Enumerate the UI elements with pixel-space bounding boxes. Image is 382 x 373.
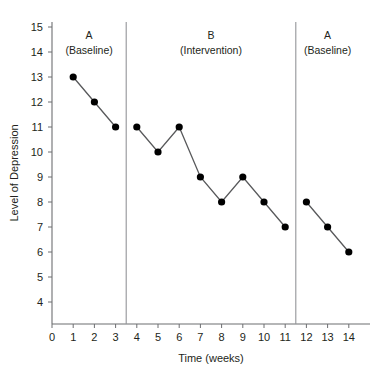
data-point-week-7 xyxy=(197,173,204,180)
x-tick-label-0: 0 xyxy=(49,331,55,343)
x-tick-label-13: 13 xyxy=(321,331,333,343)
x-tick-label-14: 14 xyxy=(343,331,355,343)
phase-divider-lines xyxy=(126,22,296,324)
data-point-week-6 xyxy=(176,123,183,130)
data-point-week-5 xyxy=(154,148,161,155)
y-tick-label-6: 6 xyxy=(37,246,43,258)
data-point-week-1 xyxy=(70,73,77,80)
x-tick-label-11: 11 xyxy=(279,331,290,343)
phase-b-condition: (Intervention) xyxy=(180,44,242,56)
data-point-week-14 xyxy=(345,248,352,255)
y-tick-label-9: 9 xyxy=(37,171,43,183)
y-tick-label-5: 5 xyxy=(37,271,43,283)
phase-a1-letter: A xyxy=(86,29,93,41)
chart-container: 456789101112131415 Level of Depression 0… xyxy=(0,0,382,373)
data-point-week-10 xyxy=(260,198,267,205)
x-tick-label-5: 5 xyxy=(155,331,161,343)
data-point-week-8 xyxy=(218,198,225,205)
x-tick-label-6: 6 xyxy=(176,331,182,343)
series-line-segments xyxy=(73,77,349,252)
data-point-week-13 xyxy=(324,223,331,230)
y-tick-label-15: 15 xyxy=(31,21,43,33)
x-tick-label-3: 3 xyxy=(113,331,119,343)
data-point-week-9 xyxy=(239,173,246,180)
depression-level-line-chart: 456789101112131415 Level of Depression 0… xyxy=(0,0,382,373)
x-tick-label-4: 4 xyxy=(134,331,140,343)
x-axis-group: 01234567891011121314 Time (weeks) xyxy=(49,324,370,364)
x-tick-label-7: 7 xyxy=(197,331,203,343)
x-tick-label-9: 9 xyxy=(240,331,246,343)
y-tick-label-4: 4 xyxy=(37,296,43,308)
phase-a1-condition: (Baseline) xyxy=(65,44,112,56)
x-tick-label-1: 1 xyxy=(70,331,76,343)
data-point-week-4 xyxy=(133,123,140,130)
y-tick-label-11: 11 xyxy=(32,121,43,133)
y-axis-title: Level of Depression xyxy=(8,124,20,221)
y-axis-ticks: 456789101112131415 xyxy=(31,21,52,308)
phase-a2-letter: A xyxy=(324,29,331,41)
y-tick-label-8: 8 xyxy=(37,196,43,208)
data-point-week-11 xyxy=(282,223,289,230)
phase-b-line xyxy=(137,127,285,227)
phase-labels: A(Baseline)B(Intervention)A(Baseline) xyxy=(65,29,351,56)
x-tick-label-2: 2 xyxy=(91,331,97,343)
y-tick-label-13: 13 xyxy=(31,71,43,83)
y-axis-group: 456789101112131415 Level of Depression xyxy=(8,21,52,324)
y-tick-label-10: 10 xyxy=(31,146,43,158)
phase-a2-condition: (Baseline) xyxy=(304,44,351,56)
y-tick-label-12: 12 xyxy=(31,96,43,108)
x-tick-label-8: 8 xyxy=(219,331,225,343)
x-tick-label-12: 12 xyxy=(300,331,312,343)
data-point-week-12 xyxy=(303,198,310,205)
series-data-points xyxy=(70,73,353,255)
x-axis-title: Time (weeks) xyxy=(178,352,244,364)
data-point-week-3 xyxy=(112,123,119,130)
x-tick-label-10: 10 xyxy=(258,331,270,343)
y-tick-label-7: 7 xyxy=(37,221,43,233)
phase-b-letter: B xyxy=(207,29,214,41)
y-tick-label-14: 14 xyxy=(31,46,43,58)
data-point-week-2 xyxy=(91,98,98,105)
x-axis-ticks: 01234567891011121314 xyxy=(49,324,355,343)
